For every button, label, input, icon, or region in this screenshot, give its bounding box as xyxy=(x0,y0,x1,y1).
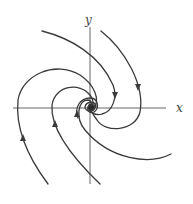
y-axis-label: y xyxy=(84,13,92,27)
trajectory-4 xyxy=(52,87,100,184)
x-axis-label: x xyxy=(176,101,183,115)
arrow-4 xyxy=(52,120,58,127)
arrow-3 xyxy=(20,134,26,141)
phase-portrait: x y xyxy=(0,0,193,204)
arrow-2 xyxy=(135,84,141,91)
arrow-1 xyxy=(112,92,118,99)
